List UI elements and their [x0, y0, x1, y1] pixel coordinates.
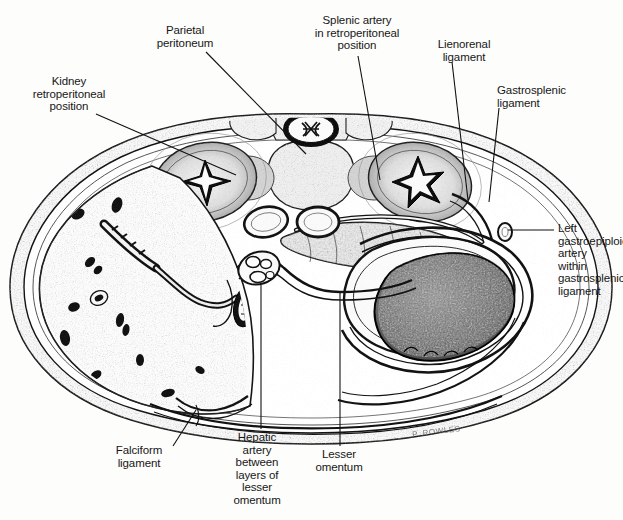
- label-parietal-peritoneum: Parietal peritoneum: [133, 24, 237, 49]
- label-splenic-artery: Splenic artery in retroperitoneal positi…: [290, 14, 424, 52]
- label-left-gastroepiploic-artery: Left gastroepiploic artery within gastro…: [558, 222, 623, 298]
- label-hepatic-artery: Hepatic artery between layers of lesser …: [215, 431, 299, 507]
- label-gastrosplenic-ligament: Gastrosplenic ligament: [497, 84, 617, 109]
- label-kidney: Kidney retroperitoneal position: [10, 75, 128, 113]
- label-lienorenal-ligament: Lienorenal ligament: [418, 38, 510, 63]
- label-falciform-ligament: Falciform ligament: [99, 444, 179, 469]
- label-lesser-omentum: Lesser omentum: [300, 448, 378, 473]
